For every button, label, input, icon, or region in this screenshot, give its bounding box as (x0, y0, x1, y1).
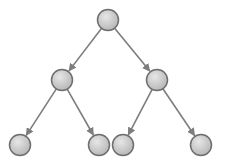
node-right-left (113, 135, 134, 156)
node-root (98, 10, 119, 31)
edge-root-to-right (115, 28, 150, 71)
edge-left-to-left-left (26, 89, 56, 136)
node-left-right (89, 135, 110, 156)
node-right-right (191, 135, 212, 156)
node-right (147, 70, 168, 91)
edge-right-to-right-right (163, 89, 195, 136)
nodes (10, 10, 212, 156)
edge-root-to-left (69, 28, 102, 71)
edge-right-to-right-left (128, 89, 152, 135)
edge-left-to-left-right (67, 89, 93, 135)
node-left-left (10, 135, 31, 156)
node-left (52, 70, 73, 91)
binary-tree-diagram (0, 0, 225, 166)
